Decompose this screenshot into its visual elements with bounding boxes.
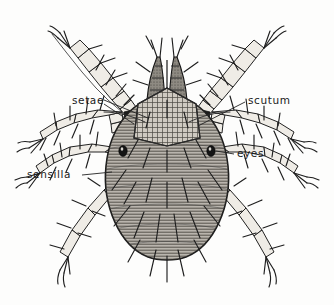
eye-left bbox=[119, 146, 127, 157]
label-sensilla: sensilla bbox=[27, 168, 71, 180]
label-setae: setae bbox=[72, 94, 104, 106]
label-eyes: eyes bbox=[237, 147, 264, 159]
mite-diagram-canvas: setae scutum eyes sensilla bbox=[0, 0, 334, 305]
label-scutum: scutum bbox=[248, 94, 291, 106]
eye-right bbox=[207, 146, 215, 157]
mite-illustration-figure: setae scutum eyes sensilla bbox=[0, 0, 334, 305]
